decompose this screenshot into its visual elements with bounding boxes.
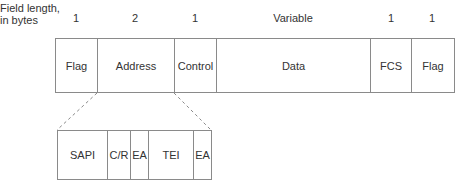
field-ea-2: EA	[194, 131, 211, 179]
field-sapi: SAPI	[58, 131, 108, 179]
field-cr: C/R	[108, 131, 131, 179]
field-tei: TEI	[149, 131, 194, 179]
address-detail: SAPI C/R EA TEI EA	[57, 130, 212, 180]
field-ea-1: EA	[131, 131, 149, 179]
